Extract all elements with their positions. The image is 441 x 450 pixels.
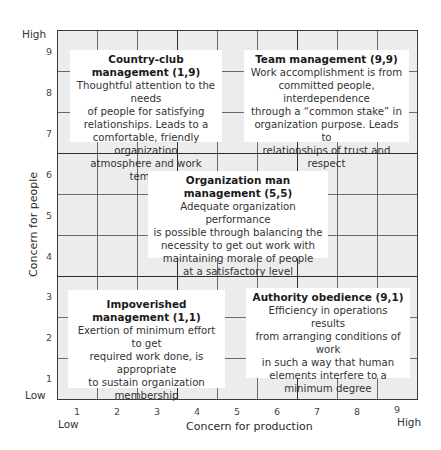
box-line: Exertion of minimum effort to get bbox=[72, 324, 221, 350]
box-line: maintaining morale of people bbox=[152, 252, 324, 265]
x-axis-title: Concern for production bbox=[186, 420, 313, 433]
y-axis-high-label: High bbox=[22, 28, 46, 40]
y-tick: 9 bbox=[46, 46, 52, 57]
organization-man-management-box: Organization man management (5,5) Adequa… bbox=[148, 171, 328, 258]
y-tick: 7 bbox=[46, 128, 52, 139]
y-axis-low-label: Low bbox=[25, 389, 46, 401]
box-line: Thoughtful attention to the needs bbox=[74, 79, 218, 105]
y-tick: 2 bbox=[46, 332, 52, 343]
box-line: at a satisfactory level bbox=[152, 265, 324, 278]
box-line: relationships. Leads to a bbox=[74, 118, 218, 131]
box-title: Organization man management (5,5) bbox=[152, 174, 324, 200]
x-tick: 4 bbox=[194, 406, 200, 417]
box-title: Team management (9,9) bbox=[248, 53, 405, 66]
box-line: relationships of trust and respect bbox=[248, 144, 405, 170]
box-line: membership bbox=[72, 389, 221, 402]
team-management-box: Team management (9,9) Work accomplishmen… bbox=[244, 50, 409, 142]
box-line: necessity to get out work with bbox=[152, 239, 324, 252]
x-tick: 5 bbox=[234, 406, 240, 417]
x-tick: 1 bbox=[74, 406, 80, 417]
y-tick: 8 bbox=[46, 87, 52, 98]
box-line: elements interfere to a bbox=[250, 369, 406, 382]
box-line: committed people, interdependence bbox=[248, 79, 405, 105]
box-line: is possible through balancing the bbox=[152, 226, 324, 239]
x-tick: 2 bbox=[114, 406, 120, 417]
box-line: Efficiency in operations results bbox=[250, 304, 406, 330]
impoverished-management-box: Impoverished management (1,1) Exertion o… bbox=[68, 290, 225, 388]
box-title: Country-club management (1,9) bbox=[74, 53, 218, 79]
x-tick: 7 bbox=[314, 406, 320, 417]
y-tick: 3 bbox=[46, 291, 52, 302]
y-tick: 1 bbox=[46, 373, 52, 384]
box-line: of people for satisfying bbox=[74, 105, 218, 118]
y-tick: 5 bbox=[46, 210, 52, 221]
authority-obedience-box: Authority obedience (9,1) Efficiency in … bbox=[246, 288, 410, 378]
y-axis-title: Concern for people bbox=[27, 170, 40, 280]
box-line: comfortable, friendly organization bbox=[74, 131, 218, 157]
box-line: from arranging conditions of work bbox=[250, 330, 406, 356]
country-club-management-box: Country-club management (1,9) Thoughtful… bbox=[70, 50, 222, 142]
x-tick: 6 bbox=[274, 406, 280, 417]
box-title: Authority obedience (9,1) bbox=[250, 291, 406, 304]
box-line: minimum degree bbox=[250, 382, 406, 395]
x-axis-low-label: Low bbox=[58, 418, 79, 430]
box-line: Work accomplishment is from bbox=[248, 66, 405, 79]
x-axis-high-label: High bbox=[397, 416, 421, 428]
y-tick: 6 bbox=[46, 169, 52, 180]
x-tick: 9 bbox=[394, 404, 400, 415]
box-line: organization purpose. Leads to bbox=[248, 118, 405, 144]
box-line: required work done, is appropriate bbox=[72, 350, 221, 376]
x-tick: 8 bbox=[354, 406, 360, 417]
box-line: Adequate organization performance bbox=[152, 200, 324, 226]
box-line: through a “common stake” in bbox=[248, 105, 405, 118]
box-line: to sustain organization bbox=[72, 376, 221, 389]
box-line: in such a way that human bbox=[250, 356, 406, 369]
x-tick: 3 bbox=[154, 406, 160, 417]
y-tick: 4 bbox=[46, 251, 52, 262]
box-title: Impoverished management (1,1) bbox=[72, 298, 221, 324]
